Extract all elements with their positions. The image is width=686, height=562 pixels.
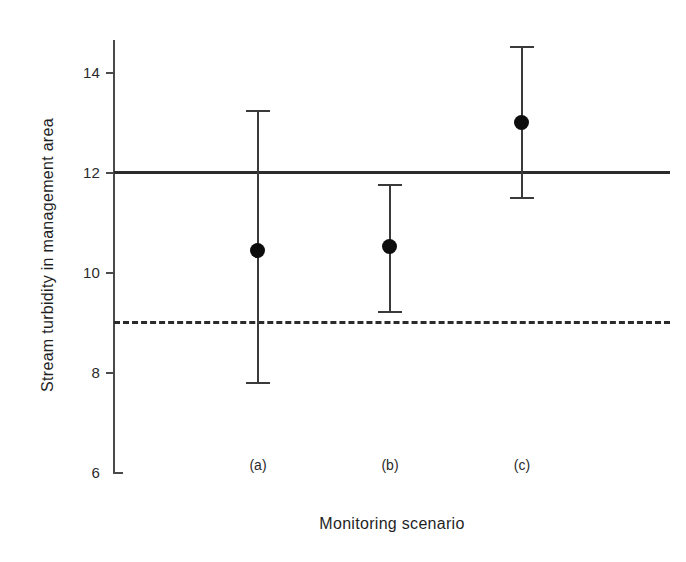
x-tick-label-b: (b) <box>355 457 425 473</box>
data-point-b <box>382 239 397 254</box>
x-tick-label-a: (a) <box>223 457 293 473</box>
errorbar-group-a <box>228 0 288 562</box>
errorbar-group-c <box>492 0 552 562</box>
errorbar-cap-bottom-a <box>246 382 270 384</box>
x-axis-title: Monitoring scenario <box>114 515 670 533</box>
y-axis-foot <box>113 472 123 474</box>
errorbar-group-b <box>360 0 420 562</box>
y-axis-title: Stream turbidity in management area <box>39 35 57 475</box>
data-point-a <box>250 243 265 258</box>
data-point-c <box>514 115 529 130</box>
y-tick-14 <box>106 72 115 74</box>
y-tick-label-6: 6 <box>56 465 100 480</box>
x-tick-label-c: (c) <box>487 457 557 473</box>
y-tick-8 <box>106 372 115 374</box>
y-tick-label-14: 14 <box>56 65 100 80</box>
errorbar-cap-bottom-c <box>510 197 534 199</box>
y-tick-label-12: 12 <box>56 165 100 180</box>
chart-figure: 14 12 10 8 6 (a) (b) (c) Monitoring scen… <box>0 0 686 562</box>
y-tick-10 <box>106 272 115 274</box>
y-tick-label-8: 8 <box>56 365 100 380</box>
y-tick-label-group: 14 12 10 8 6 <box>50 0 100 562</box>
errorbar-cap-bottom-b <box>378 311 402 313</box>
y-tick-label-10: 10 <box>56 265 100 280</box>
y-axis-spine <box>113 40 115 474</box>
